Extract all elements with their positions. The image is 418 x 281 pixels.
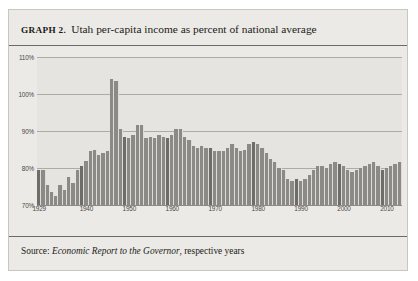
y-axis-tick-label: 110% xyxy=(19,54,34,61)
figure-card: GRAPH 2.Utah per-capita income as percen… xyxy=(8,9,408,271)
bar-series xyxy=(37,57,402,205)
x-axis-tick-label: 1960 xyxy=(166,205,179,212)
graph-number-label: GRAPH 2. xyxy=(21,25,66,35)
figure-title-band: GRAPH 2.Utah per-capita income as percen… xyxy=(9,10,407,46)
x-axis-tick-label: 1980 xyxy=(251,205,264,212)
x-axis: 192919401950196019701980199020002010 xyxy=(37,205,402,218)
figure-source-band: Source: Economic Report to the Governor,… xyxy=(9,236,407,270)
x-axis-tick-label: 1990 xyxy=(294,205,307,212)
chart-region: 70%80%90%100%110% 1929194019501960197019… xyxy=(9,46,409,238)
x-axis-tick-label: 1950 xyxy=(123,205,136,212)
y-axis-tick-label: 100% xyxy=(18,91,34,98)
screenshot-page: GRAPH 2.Utah per-capita income as percen… xyxy=(0,0,418,281)
x-axis-tick-label: 1929 xyxy=(32,205,45,212)
source-publication: Economic Report to the Governor xyxy=(52,246,180,256)
source-suffix: , respective years xyxy=(180,246,245,256)
y-axis-tick-label: 90% xyxy=(22,128,34,135)
figure-title-row: GRAPH 2.Utah per-capita income as percen… xyxy=(21,19,407,37)
x-axis-tick-label: 2000 xyxy=(337,205,350,212)
x-axis-tick-label: 2010 xyxy=(380,205,393,212)
bar xyxy=(398,162,402,205)
source-prefix: Source: xyxy=(21,246,50,256)
plot-area: 70%80%90%100%110% xyxy=(37,57,402,205)
x-axis-tick-label: 1970 xyxy=(208,205,221,212)
page-title: Utah per-capita income as percent of nat… xyxy=(71,23,317,35)
y-axis-tick-label: 80% xyxy=(22,165,34,172)
source-note: Source: Economic Report to the Governor,… xyxy=(21,246,407,256)
x-axis-tick-label: 1940 xyxy=(80,205,93,212)
